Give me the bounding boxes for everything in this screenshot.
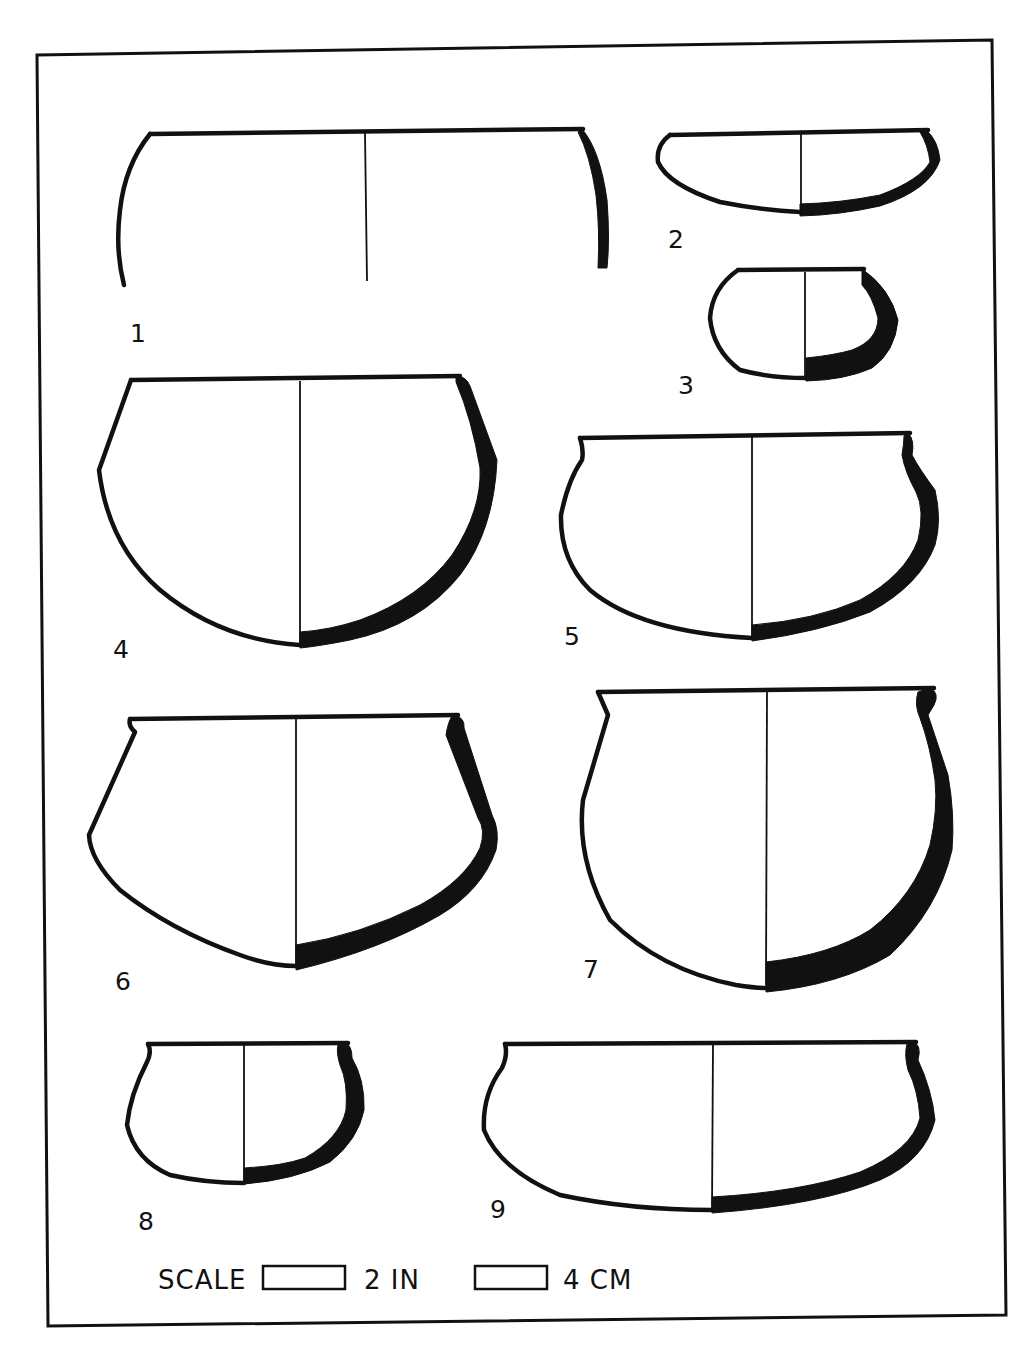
vessel-label-1: 1 <box>130 319 146 348</box>
vessel-8 <box>127 1043 364 1184</box>
vessel-4 <box>99 376 497 648</box>
plate-frame <box>37 40 1006 1326</box>
pottery-plate: 1 2 3 4 5 6 <box>0 0 1034 1346</box>
vessel-label-9: 9 <box>490 1195 506 1224</box>
vessel-3 <box>710 269 898 381</box>
vessel-label-4: 4 <box>113 635 129 664</box>
vessel-1 <box>118 129 608 285</box>
vessel-label-2: 2 <box>668 225 684 254</box>
vessel-9 <box>484 1042 935 1213</box>
scale-label: SCALE <box>158 1265 246 1295</box>
vessel-label-5: 5 <box>564 622 580 651</box>
vessel-5 <box>561 433 939 641</box>
vessel-label-7: 7 <box>583 955 599 984</box>
scale-value-inches: 2 IN <box>364 1265 420 1295</box>
vessel-2 <box>658 130 940 216</box>
vessel-label-3: 3 <box>678 371 694 400</box>
scale-bar-cm <box>475 1266 547 1289</box>
scale-value-cm: 4 CM <box>563 1265 632 1295</box>
scale-legend: SCALE 2 IN 4 CM <box>158 1265 632 1295</box>
vessel-label-6: 6 <box>115 967 131 996</box>
vessel-6 <box>89 715 497 970</box>
scale-bar-inches <box>263 1266 345 1289</box>
vessel-7 <box>582 688 953 992</box>
vessel-label-8: 8 <box>138 1207 154 1236</box>
